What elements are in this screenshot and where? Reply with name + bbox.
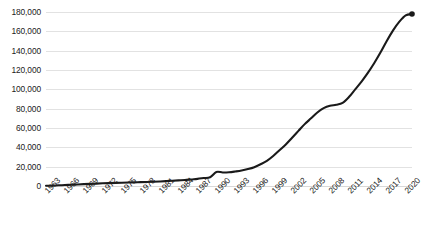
y-tick-label: 0 [36,182,41,190]
y-tick-label: 40,000 [16,143,41,151]
y-tick-label: 180,000 [11,8,41,16]
y-tick-label: 120,000 [11,66,41,74]
y-tick-label: 100,000 [11,85,41,93]
y-tick-label: 140,000 [11,46,41,54]
end-point-marker [409,11,415,17]
y-tick-label: 160,000 [11,27,41,35]
y-tick-label: 60,000 [16,124,41,132]
series-path [46,14,412,186]
y-axis: 180,000160,000140,000120,000100,00080,00… [0,0,44,232]
y-tick-label: 80,000 [16,104,41,112]
y-tick-label: 20,000 [16,162,41,170]
x-axis: 1963196619691972197519781981198419871990… [46,189,412,232]
